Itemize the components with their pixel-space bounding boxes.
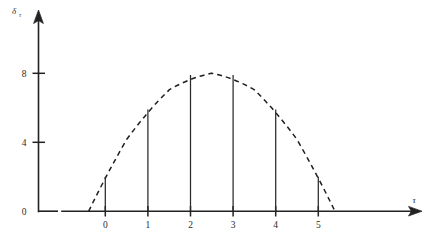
chart-figure: 8 4 0 δ τ τ 0 1 2 3 4 5	[0, 0, 435, 239]
x-axis	[62, 206, 422, 216]
x-axis-title: τ	[412, 195, 416, 205]
y-axis-title-symbol: δ	[12, 6, 17, 16]
x-tick-label-5: 5	[316, 220, 321, 230]
parabolic-stem-plot: 8 4 0 δ τ τ 0 1 2 3 4 5	[0, 0, 435, 239]
y-tick-label-8: 8	[22, 69, 27, 79]
x-tick-label-1: 1	[146, 220, 151, 230]
y-axis	[34, 10, 58, 212]
x-tick-label-4: 4	[273, 220, 278, 230]
stem-lines-group	[105, 75, 318, 211]
y-axis-title-subscript: τ	[19, 12, 22, 18]
x-tick-label-3: 3	[231, 220, 236, 230]
dashed-parabola-curve	[89, 73, 335, 211]
x-tick-label-2: 2	[188, 220, 193, 230]
y-tick-label-0: 0	[22, 207, 27, 217]
x-tick-label-0: 0	[103, 220, 108, 230]
y-tick-label-4: 4	[22, 138, 27, 148]
y-axis-title: δ τ	[12, 6, 22, 18]
